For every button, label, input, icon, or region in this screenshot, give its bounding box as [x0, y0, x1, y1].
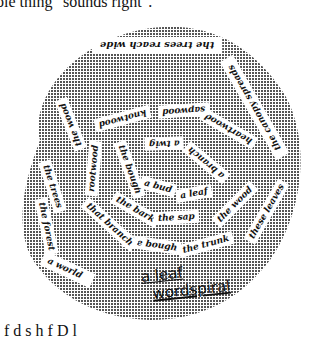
- spiral-word: the sap: [154, 210, 199, 225]
- spiral-word: the trees reach wide: [92, 37, 222, 54]
- body-text-bottom: f d s h f D l: [4, 322, 77, 340]
- spiral-word: a twig: [145, 136, 184, 150]
